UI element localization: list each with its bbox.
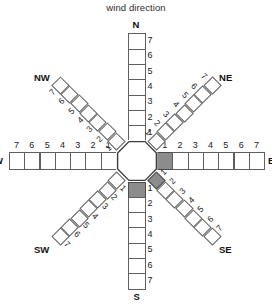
compass-label-nw: NW [34,72,50,83]
cell-e-5 [218,152,234,170]
compass-label-w: W [0,155,3,166]
tick-s-5: 5 [148,244,158,254]
cell-n-4 [128,79,146,95]
compass-label-sw: SW [34,244,49,255]
cell-n-7 [128,33,146,49]
octagon-outline [115,139,159,183]
tick-w-4: 4 [57,140,67,150]
tick-e-7: 7 [251,140,261,150]
cell-e-4 [203,152,219,170]
cell-s-5 [128,243,146,259]
tick-w-3: 3 [73,140,83,150]
tick-s-2: 2 [148,198,158,208]
tick-n-7: 7 [148,35,158,45]
compass-label-ne: NE [219,72,232,83]
tick-e-4: 4 [206,140,216,150]
cell-s-6 [128,258,146,274]
cell-n-5 [128,64,146,80]
tick-s-7: 7 [148,275,158,285]
tick-w-7: 7 [12,140,22,150]
tick-s-3: 3 [148,214,158,224]
tick-n-4: 4 [148,81,158,91]
cell-w-3 [70,152,86,170]
tick-n-6: 6 [148,50,158,60]
cell-w-7 [9,152,25,170]
tick-s-6: 6 [148,260,158,270]
tick-w-6: 6 [27,140,37,150]
cell-w-6 [24,152,40,170]
tick-e-2: 2 [175,140,185,150]
wind-direction-diagram: wind direction 1234567123456712345671234… [0,0,272,307]
cell-s-3 [128,212,146,228]
compass-label-n: N [133,19,140,30]
compass-label-s: S [134,291,140,302]
tick-w-2: 2 [88,140,98,150]
cell-s-7 [128,273,146,289]
compass-label-e: E [268,155,272,166]
cell-n-6 [128,49,146,65]
tick-e-6: 6 [236,140,246,150]
cell-s-2 [128,197,146,213]
cell-n-3 [128,95,146,111]
tick-e-5: 5 [221,140,231,150]
cell-s-4 [128,227,146,243]
tick-n-3: 3 [148,96,158,106]
cell-e-2 [172,152,188,170]
cell-w-4 [55,152,71,170]
cell-w-2 [85,152,101,170]
tick-w-5: 5 [42,140,52,150]
cell-e-6 [234,152,250,170]
tick-n-5: 5 [148,66,158,76]
cell-n-2 [128,110,146,126]
tick-s-4: 4 [148,229,158,239]
tick-e-3: 3 [190,140,200,150]
chart-title: wind direction [0,2,272,13]
compass-label-se: SE [219,244,232,255]
cell-e-7 [249,152,265,170]
cell-w-5 [40,152,56,170]
cell-e-3 [188,152,204,170]
cell-s-1 [128,182,146,198]
